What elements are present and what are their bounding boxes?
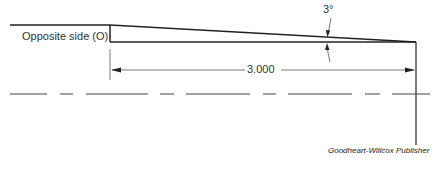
angle-label: 3° bbox=[323, 3, 334, 15]
tapered-edge-line bbox=[110, 25, 416, 42]
arrowhead-left bbox=[111, 68, 121, 73]
arrowhead-right bbox=[405, 68, 415, 73]
angle-arrowhead-bottom bbox=[325, 43, 330, 50]
taper-diagram bbox=[0, 0, 446, 169]
dimension-value: 3.000 bbox=[247, 63, 275, 75]
angle-arrowhead-top bbox=[326, 30, 330, 37]
opposite-side-label: Opposite side (O) bbox=[22, 30, 108, 42]
publisher-credit: Goodheart-Willcox Publisher bbox=[328, 146, 429, 155]
